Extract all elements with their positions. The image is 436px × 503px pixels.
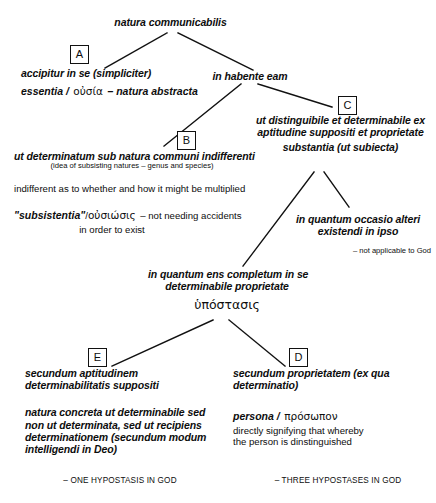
edge-root-to-habente bbox=[178, 33, 253, 70]
branch-d-line2: determinatio) bbox=[233, 379, 433, 391]
diagram-canvas: natura communicabilis A accipitur in se … bbox=[0, 0, 436, 503]
branch-e-line4: non ut determinata, sed ut recipiens bbox=[25, 419, 225, 431]
branch-occasio-note: – not applicable to God bbox=[353, 246, 431, 255]
branch-b-line2: (idea of subsisting natures – genus and … bbox=[14, 162, 250, 171]
branch-completum-node: in quantum ens completum in se determina… bbox=[148, 268, 306, 313]
branch-e-line1: secundum aptitudinem bbox=[25, 367, 225, 379]
branch-d-line4: directly signifying that whereby bbox=[233, 425, 433, 436]
branch-e-line5: determinationem (secundum modum bbox=[25, 431, 225, 443]
root-label: natura communicabilis bbox=[114, 16, 226, 28]
branch-c-line2: aptitudine suppositi et proprietate bbox=[245, 126, 436, 138]
branch-a-line1: accipitur in se (simpliciter) bbox=[21, 67, 196, 79]
branch-e-node: secundum aptitudinem determinabilitatis … bbox=[25, 367, 225, 455]
branch-e-line3: natura concreta ut determinabile sed bbox=[25, 406, 225, 418]
branch-d-conclusion-wrap: – THREE HYPOSTASES IN GOD bbox=[243, 476, 433, 486]
branch-b-quoted: "subsistentia" bbox=[14, 209, 85, 221]
branch-a-line2: essentia / οὐσία – natura abstracta bbox=[21, 81, 196, 100]
root-node: natura communicabilis bbox=[103, 16, 238, 28]
branch-c-node: ut distinguibile et determinabile ex apt… bbox=[245, 114, 436, 154]
box-label-c[interactable]: C bbox=[338, 96, 357, 115]
branch-b-line5: in order to exist bbox=[14, 224, 210, 235]
branch-habente-label: in habente eam bbox=[212, 70, 287, 82]
edge-habente-to-c bbox=[258, 84, 332, 107]
branch-b-line4: "subsistentia"/οὐσιώσις – not needing ac… bbox=[14, 205, 264, 224]
branch-a-tail: – natura abstracta bbox=[107, 85, 197, 97]
branch-b-node: ut determinatum sub natura communi indif… bbox=[14, 150, 264, 235]
branch-d-line5: the person is dinstinguished bbox=[233, 436, 433, 447]
branch-b-greek-ousiosis: οὐσιώσις bbox=[88, 209, 136, 221]
branch-completum-greek-hypostasis: ὑπόστασις bbox=[148, 298, 306, 313]
branch-occasio-line1: in quantum occasio alteri bbox=[286, 213, 430, 225]
edge-hypostasis-to-d bbox=[229, 320, 285, 366]
box-label-a[interactable]: A bbox=[70, 45, 89, 64]
branch-d-line3: persona / πρόσωπον bbox=[233, 406, 433, 425]
box-label-e[interactable]: E bbox=[88, 348, 107, 367]
branch-e-line2: determinabilitatis suppositi bbox=[25, 379, 225, 391]
branch-e-conclusion-wrap: – ONE HYPOSTASIS IN GOD bbox=[25, 476, 215, 486]
branch-d-line1: secundum proprietatem (ex qua bbox=[233, 367, 433, 379]
branch-occasio-line2: existendi in ipso bbox=[286, 225, 430, 237]
branch-b-tail: – not needing accidents bbox=[140, 210, 241, 221]
box-label-d[interactable]: D bbox=[289, 348, 308, 367]
branch-d-latin-persona: persona / bbox=[233, 410, 280, 422]
branch-c-line1: ut distinguibile et determinabile ex bbox=[245, 114, 436, 126]
branch-occasio-node: in quantum occasio alteri existendi in i… bbox=[286, 213, 430, 237]
edge-root-to-a bbox=[105, 33, 167, 68]
branch-a-latin: essentia / bbox=[21, 85, 69, 97]
box-label-b[interactable]: B bbox=[177, 131, 196, 150]
branch-completum-line2: determinabile proprietate bbox=[148, 280, 306, 292]
edge-hypostasis-to-e bbox=[112, 320, 213, 366]
branch-a-node: accipitur in se (simpliciter) essentia /… bbox=[21, 67, 196, 100]
branch-d-greek-prosopon: πρόσωπον bbox=[284, 410, 337, 422]
edge-substantia-to-occasio bbox=[324, 172, 349, 207]
branch-a-greek-ousia: οὐσία bbox=[73, 85, 103, 97]
branch-d-node: secundum proprietatem (ex qua determinat… bbox=[233, 367, 433, 447]
branch-habente-node: in habente eam bbox=[205, 70, 295, 82]
branch-d-conclusion: – THREE HYPOSTASES IN GOD bbox=[275, 476, 402, 485]
branch-e-line6: intelligendi in Deo) bbox=[25, 443, 225, 455]
branch-completum-line1: in quantum ens completum in se bbox=[148, 268, 306, 280]
branch-e-conclusion: – ONE HYPOSTASIS IN GOD bbox=[63, 476, 176, 485]
branch-c-line3: substantia (ut subiecta) bbox=[245, 141, 436, 153]
branch-occasio-note-wrap: – not applicable to God bbox=[286, 247, 431, 256]
branch-b-line3: indifferent as to whether and how it mig… bbox=[14, 183, 264, 194]
